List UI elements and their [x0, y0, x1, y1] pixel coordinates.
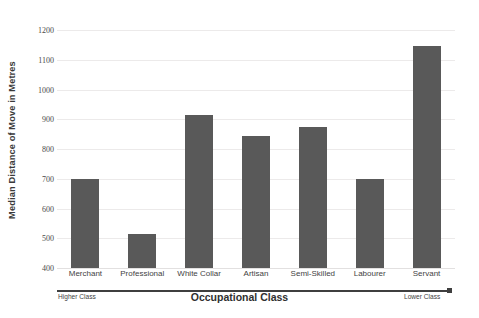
x-axis-category-label: Artisan: [244, 269, 269, 278]
x-axis-category-label: Merchant: [69, 269, 102, 278]
x-axis-category-labels: MerchantProfessionalWhite CollarArtisanS…: [57, 269, 455, 283]
bar: [185, 115, 213, 268]
y-axis-tick-label: 400: [20, 264, 54, 273]
y-axis-tick-label: 1000: [20, 85, 54, 94]
bar: [356, 179, 384, 268]
plot-area: [57, 30, 455, 268]
x-axis-category-label: Semi-Skilled: [291, 269, 335, 278]
y-axis-tick-label: 1200: [20, 26, 54, 35]
bar: [299, 127, 327, 268]
bar: [71, 179, 99, 268]
bar-chart: Median Distance of Move in Metres 120011…: [0, 0, 479, 318]
gridline: [57, 119, 455, 120]
x-axis-category-label: Servant: [413, 269, 441, 278]
y-axis-tick-label: 900: [20, 115, 54, 124]
gridline: [57, 60, 455, 61]
x-axis-category-label: Professional: [120, 269, 164, 278]
x-axis-category-label: White Collar: [177, 269, 221, 278]
y-axis-tick-label: 800: [20, 145, 54, 154]
x-axis-category-label: Labourer: [354, 269, 386, 278]
y-axis-tick-labels: 120011001000900800700600500400: [16, 30, 54, 268]
y-axis-tick-label: 1100: [20, 55, 54, 64]
bar: [413, 46, 441, 268]
gridline: [57, 30, 455, 31]
y-axis-tick-label: 700: [20, 174, 54, 183]
gridline: [57, 90, 455, 91]
bar: [128, 234, 156, 268]
y-axis-tick-label: 600: [20, 204, 54, 213]
bar: [242, 136, 270, 268]
x-axis-title: Occupational Class: [0, 291, 479, 303]
y-axis-tick-label: 500: [20, 234, 54, 243]
